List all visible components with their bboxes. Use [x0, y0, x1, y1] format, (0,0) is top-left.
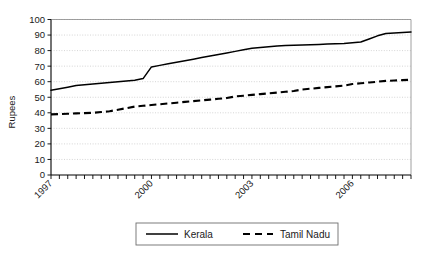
y-axis-title: Rupees — [6, 95, 17, 128]
x-tick-label: 2003 — [233, 178, 256, 201]
x-tick-label: 2000 — [132, 178, 155, 201]
y-tick-label: 20 — [34, 138, 45, 149]
y-tick-label: 40 — [34, 107, 45, 118]
series-line-tamil-nadu — [51, 80, 411, 115]
chart-container: 0102030405060708090100 1997200020032006 … — [0, 0, 423, 255]
y-tick-label: 10 — [34, 154, 45, 165]
y-tick-label: 70 — [34, 61, 45, 72]
line-chart: 0102030405060708090100 1997200020032006 … — [0, 0, 423, 255]
y-tick-label: 100 — [29, 14, 45, 25]
y-tick-label: 50 — [34, 92, 45, 103]
legend-label-tamil-nadu: Tamil Nadu — [280, 229, 330, 240]
y-tick-label: 90 — [34, 29, 45, 40]
y-axis-tick-labels: 0102030405060708090100 — [29, 14, 45, 181]
y-tick-label: 30 — [34, 123, 45, 134]
y-tick-label: 60 — [34, 76, 45, 87]
x-axis-tick-marks — [51, 175, 411, 179]
gridlines — [51, 20, 411, 160]
x-axis-tick-labels: 1997200020032006 — [32, 178, 356, 201]
y-tick-label: 80 — [34, 45, 45, 56]
legend-label-kerala: Kerala — [184, 229, 213, 240]
x-tick-label: 2006 — [333, 178, 356, 201]
x-tick-label: 1997 — [32, 178, 55, 201]
